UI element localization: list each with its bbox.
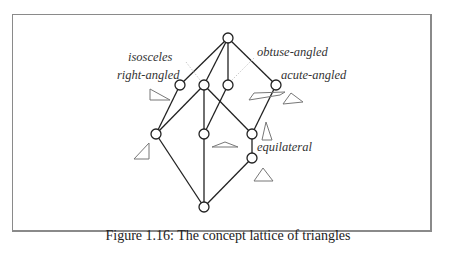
node-equilateral	[247, 153, 257, 163]
figure-caption: Figure 1.16: The concept lattice of tria…	[0, 228, 456, 244]
node-isosceles	[199, 80, 209, 90]
node-right-isosceles	[151, 129, 161, 139]
acute-isosceles-icon	[262, 122, 272, 140]
equilateral-triangle-icon	[254, 168, 273, 181]
node-bottom	[199, 202, 209, 212]
node-obtuse-isosceles	[199, 129, 209, 139]
node-obtuse-angled	[223, 80, 233, 90]
acute-triangle-icon	[283, 93, 303, 104]
node-acute-isosceles	[247, 129, 257, 139]
label-equilateral: equilateral	[257, 140, 312, 155]
label-obtuse-angled: obtuse-angled	[257, 45, 328, 60]
obtuse-isosceles-icon	[212, 142, 238, 147]
label-right-angled: right-angled	[117, 68, 180, 83]
node-top	[223, 33, 233, 43]
right-triangle-icon	[150, 89, 170, 100]
label-acute-angled: acute-angled	[281, 68, 346, 83]
lattice-diagram	[0, 0, 456, 259]
obtuse-triangle-icon	[249, 92, 285, 100]
right-isosceles-icon	[134, 143, 149, 159]
node-acute-angled	[271, 80, 281, 90]
label-isosceles: isosceles	[128, 50, 172, 65]
lattice-edges	[156, 38, 276, 207]
